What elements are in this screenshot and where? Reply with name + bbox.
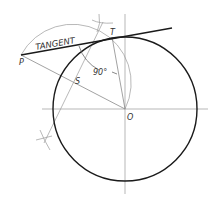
line-po	[21, 55, 125, 109]
diagram-canvas: TANGENT P T S O 90°	[0, 0, 218, 202]
bisector-arc-top	[92, 20, 113, 23]
right-angle-arc	[79, 46, 99, 70]
tangent-construction-diagram: TANGENT P T S O 90°	[0, 0, 218, 202]
point-t-label: T	[110, 28, 116, 37]
right-angle-arrow	[112, 72, 117, 74]
point-o-label: O	[127, 113, 133, 122]
point-s-label: S	[75, 77, 80, 86]
angle-label: 90°	[93, 68, 107, 77]
point-p-label: P	[19, 58, 24, 67]
